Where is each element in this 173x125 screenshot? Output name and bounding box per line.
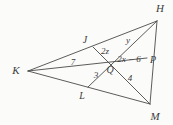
segment-label-QP: 2x − 6	[117, 55, 141, 64]
segment-label-QM: 4	[128, 74, 133, 83]
edge-KH	[28, 21, 157, 71]
point-label-L: L	[79, 91, 85, 101]
vertex-label-H: H	[156, 3, 164, 14]
point-label-Q: Q	[106, 65, 113, 75]
point-label-P: P	[150, 55, 156, 65]
segment-label-JQ: 2z	[101, 47, 109, 56]
vertex-label-M: M	[150, 111, 159, 122]
figure-canvas	[0, 0, 173, 125]
vertex-label-K: K	[12, 65, 19, 76]
segment-label-KQ: 7	[71, 58, 76, 67]
segment-label-QL: 3	[94, 71, 99, 80]
segment-label-QH: y	[126, 36, 130, 45]
geometry-figure: H K M J L P Q 7 3 4 2z y 2x − 6	[0, 0, 173, 125]
point-label-J: J	[83, 35, 87, 45]
